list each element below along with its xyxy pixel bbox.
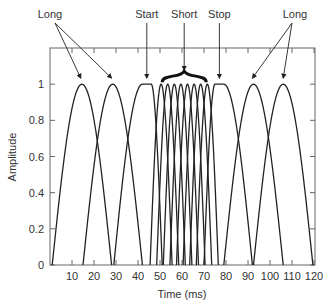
- window-chart: 10203040506070809010011012000.20.40.60.8…: [0, 0, 330, 304]
- window-curve: [170, 84, 192, 265]
- annotations: LongStartShortStopLong: [38, 8, 307, 82]
- x-tick-label: 90: [242, 270, 254, 282]
- annotation-label: Long: [38, 8, 62, 20]
- x-tick-label: 60: [176, 270, 188, 282]
- annotation-label: Long: [283, 8, 307, 20]
- annotation-arrow: [252, 23, 292, 78]
- window-curve: [183, 84, 205, 265]
- annotation-arrow: [283, 23, 292, 78]
- window-curve: [163, 84, 185, 265]
- y-tick-label: 0: [38, 259, 44, 271]
- window-curves: [52, 84, 313, 265]
- x-tick-label: 120: [305, 270, 323, 282]
- y-tick-label: 0.2: [29, 223, 44, 235]
- annotation-arrow: [55, 23, 112, 78]
- short-brace: [162, 71, 206, 82]
- window-curve: [114, 84, 162, 265]
- x-tick-label: 40: [132, 270, 144, 282]
- annotation-label: Short: [171, 8, 197, 20]
- x-tick-label: 110: [283, 270, 301, 282]
- y-tick-label: 0.4: [29, 187, 44, 199]
- x-tick-label: 20: [88, 270, 100, 282]
- x-tick-label: 30: [110, 270, 122, 282]
- x-tick-label: 70: [198, 270, 210, 282]
- y-tick-label: 0.6: [29, 151, 44, 163]
- plot-frame: [50, 48, 315, 265]
- window-curve: [157, 84, 179, 265]
- window-curve: [177, 84, 199, 265]
- annotation-label: Stop: [208, 8, 231, 20]
- y-tick-label: 0.8: [29, 114, 44, 126]
- x-axis-label: Time (ms): [157, 288, 206, 300]
- y-axis-label: Amplitude: [6, 133, 18, 182]
- x-tick-label: 10: [66, 270, 78, 282]
- window-curve: [254, 84, 313, 265]
- annotation-arrow: [55, 23, 81, 78]
- window-curve: [224, 84, 283, 265]
- y-tick-label: 1: [38, 78, 44, 90]
- x-tick-label: 80: [220, 270, 232, 282]
- x-tick-label: 100: [261, 270, 279, 282]
- x-tick-label: 50: [154, 270, 166, 282]
- axis-ticks: 10203040506070809010011012000.20.40.60.8…: [29, 48, 323, 282]
- annotation-label: Start: [135, 8, 158, 20]
- window-curve: [190, 84, 212, 265]
